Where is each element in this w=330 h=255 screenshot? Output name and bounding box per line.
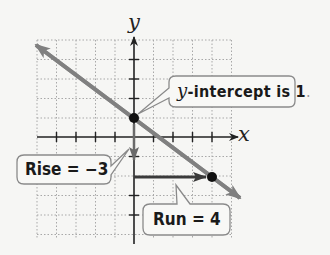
- y-variable: y: [177, 80, 187, 101]
- x-axis: [37, 132, 238, 142]
- run-label: Run = 4: [153, 209, 221, 229]
- x-axis-label: x: [238, 122, 250, 146]
- rise-label: Rise = −3: [25, 159, 108, 179]
- second-point: [207, 172, 217, 182]
- y-intercept-text: -intercept is 1: [187, 82, 305, 101]
- y-axis-label: y: [128, 10, 140, 34]
- y-intercept-period: .: [306, 82, 311, 101]
- y-intercept-label: y-intercept is 1.: [177, 80, 311, 101]
- y-intercept-point: [129, 113, 139, 123]
